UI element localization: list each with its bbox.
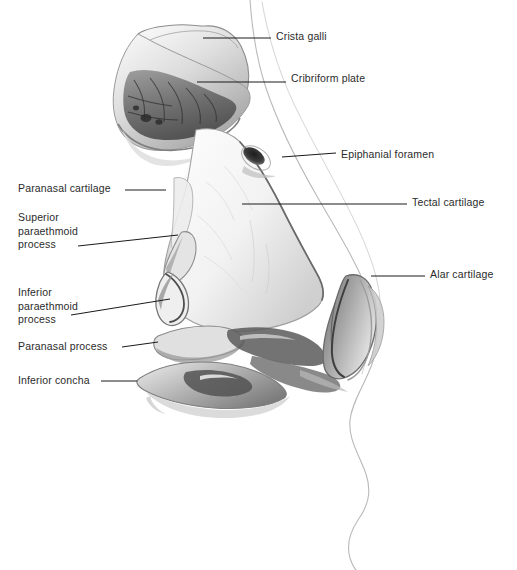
septal-base-form: [227, 327, 326, 366]
anatomical-illustration: [0, 0, 517, 570]
leader-line-paranasal-process: [122, 342, 158, 347]
label-inferior-paraethmoid-process: Inferior paraethmoid process: [18, 286, 78, 327]
label-superior-paraethmoid-process: Superior paraethmoid process: [18, 211, 78, 252]
label-cribriform-plate: Cribriform plate: [291, 72, 365, 86]
label-inferior-concha: Inferior concha: [18, 374, 90, 388]
figure-plate: Crista galliCribriform plateEpiphanial f…: [0, 0, 517, 570]
leader-line-superior-paraethmoid-process: [78, 235, 178, 246]
label-crista-galli: Crista galli: [276, 30, 327, 44]
alar-cartilage-group: [323, 275, 384, 380]
leader-line-inferior-paraethmoid-process: [71, 299, 170, 315]
label-alar-cartilage: Alar cartilage: [430, 268, 493, 282]
leader-line-epiphanial-foramen: [282, 153, 336, 157]
label-epiphanial-foramen: Epiphanial foramen: [341, 148, 434, 162]
label-paranasal-process: Paranasal process: [18, 340, 108, 354]
label-tectal-cartilage: Tectal cartilage: [412, 196, 484, 210]
label-paranasal-cartilage: Paranasal cartilage: [18, 182, 111, 196]
